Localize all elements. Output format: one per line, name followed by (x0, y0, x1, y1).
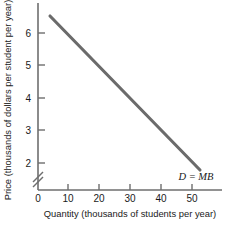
demand-marginal-benefit-line (50, 16, 200, 170)
y-tick-label-4: 4 (25, 93, 31, 104)
y-tick-label-3: 3 (25, 125, 31, 136)
x-tick-label-20: 20 (93, 193, 105, 204)
curve-label-demand: D = MB (177, 171, 214, 182)
x-tick-label-50: 50 (186, 193, 198, 204)
chart-canvas: 6 5 4 3 2 0 10 20 30 40 50 D = MB Quanti… (0, 0, 229, 229)
x-tick-label-10: 10 (62, 193, 74, 204)
demand-curve-chart: 6 5 4 3 2 0 10 20 30 40 50 D = MB Quanti… (0, 0, 229, 229)
y-axis-title: Price (thousands of dollars per student … (2, 0, 13, 200)
x-tick-label-0: 0 (35, 193, 41, 204)
y-tick-label-2: 2 (25, 158, 31, 169)
x-axis-title: Quantity (thousands of students per year… (44, 208, 217, 219)
y-tick-label-5: 5 (25, 60, 31, 71)
x-tick-label-40: 40 (155, 193, 167, 204)
x-tick-label-30: 30 (124, 193, 136, 204)
y-tick-label-6: 6 (25, 28, 31, 39)
